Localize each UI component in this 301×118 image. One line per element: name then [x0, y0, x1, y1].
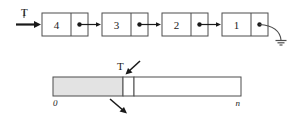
head-pointer-arrow — [16, 11, 41, 29]
list-node-value: 1 — [234, 19, 240, 31]
head-pointer-label: T — [21, 6, 28, 18]
occupied-region — [53, 77, 123, 96]
array-pointer-label: T — [117, 60, 124, 72]
list-node-value: 4 — [54, 19, 60, 31]
down-left-arrow-icon — [126, 61, 141, 75]
top-of-stack-cell — [123, 77, 134, 96]
array-right-index-label: n — [236, 98, 241, 108]
array-rectangle — [53, 77, 241, 96]
list-node-value: 2 — [174, 19, 180, 31]
figure-container: T 4 3 2 — [0, 0, 301, 118]
down-right-arrow-icon — [110, 99, 127, 114]
free-region — [134, 77, 241, 96]
array-left-index-label: 0 — [53, 98, 58, 108]
list-node-value: 3 — [114, 19, 120, 31]
